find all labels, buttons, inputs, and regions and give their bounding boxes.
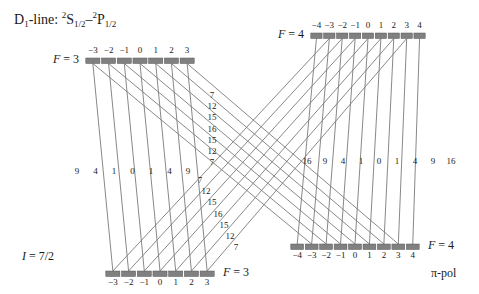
m-quantum-label: −2 [337,20,347,30]
sublevel-bar [363,244,376,250]
sublevel-bar [305,244,318,250]
title-term-a-sub: 1/2 [74,19,86,29]
m-quantum-label: 2 [392,20,397,30]
transition-strength-label: 12 [202,186,211,196]
title-term-b: P [97,12,105,27]
m-quantum-label: −2 [104,45,114,55]
level-ground-F3-lower [106,271,214,277]
level-label-value: = 4 [285,27,304,41]
transition-strength-label: 1 [359,156,364,166]
sublevel-bar [401,33,412,39]
transition-line-right-vertical [369,39,380,245]
transition-strength-label: 7 [234,242,239,252]
transition-strength-label: 9 [323,156,328,166]
m-quantum-label: −4 [312,20,322,30]
level-label-ground-F3-lower: F = 3 [223,265,249,280]
level-label-excited-F4-lower: F = 4 [428,238,454,253]
transition-strength-label: 9 [186,166,191,176]
m-quantum-label: 4 [411,250,416,260]
m-quantum-label: 2 [169,45,174,55]
transition-strength-label: 4 [341,156,346,166]
m-quantum-label: 1 [173,277,178,287]
sublevel-bar [388,33,399,39]
m-quantum-label: 0 [138,45,143,55]
transition-line-right-vertical [398,39,406,245]
diagram-title: D1-line: 2S1/2–2P1/2 [14,10,116,29]
level-ground-F3-upper [86,58,194,64]
title-mid: -line: [29,12,62,27]
transition-strength-label: 15 [208,135,217,145]
level-label-ground-F3-upper: F = 3 [37,52,79,67]
transition-strength-label: 9 [75,166,80,176]
level-label-value: = 4 [435,238,454,252]
transition-strength-label: 12 [208,146,217,156]
sublevel-bar [149,58,163,64]
level-label-value: = 3 [60,52,79,66]
sublevel-bar [86,58,100,64]
transition-line-cross-up [129,39,343,272]
transition-strength-label: 4 [413,156,418,166]
sublevel-bar [169,271,183,277]
sublevel-bar [106,271,120,277]
m-quantum-label: −3 [108,277,118,287]
sublevel-bar [153,271,167,277]
sublevel-bar [137,271,151,277]
sublevel-bar [291,244,304,250]
m-quantum-label: −3 [88,45,98,55]
m-quantum-label: −3 [307,250,317,260]
transition-strength-label: 15 [220,220,229,230]
transition-strength-label: 16 [214,209,223,219]
level-excited-F4-upper [311,33,425,39]
m-quantum-label: 4 [417,20,422,30]
m-quantum-label: −1 [140,277,150,287]
transition-line-right-vertical [326,39,342,245]
m-quantum-label: 3 [185,45,190,55]
transition-strength-label: 0 [130,166,135,176]
sublevel-bar [406,244,419,250]
transition-line-cross-up [113,39,329,272]
sublevel-bar [164,58,178,64]
m-quantum-label: −2 [321,250,331,260]
m-quantum-label: 0 [158,277,163,287]
transition-line-right-vertical [355,39,368,245]
transition-line-cross-up [160,39,368,272]
sublevel-bar [337,33,348,39]
sublevel-bar [324,33,335,39]
sublevel-bar [334,244,347,250]
m-quantum-label: 0 [353,250,358,260]
sublevel-bar [133,58,147,64]
transition-line-right-vertical [413,39,420,245]
transition-strength-label: 7 [210,157,215,167]
sublevel-bar [320,244,333,250]
transition-line-right-vertical [384,39,394,245]
sublevel-bar [414,33,425,39]
transition-strength-label: 1 [395,156,400,166]
transition-strength-label: 7 [198,175,203,185]
transition-strength-label: 4 [167,166,172,176]
m-quantum-label: 1 [367,250,372,260]
sublevel-bar [392,244,405,250]
transition-strength-label: 16 [447,156,456,166]
m-quantum-label: −1 [350,20,360,30]
title-term-b-sub: 1/2 [105,19,117,29]
polarization-label: π-pol [431,266,456,281]
transition-strength-label: 1 [112,166,117,176]
level-label-excited-F4-upper: F = 4 [262,27,304,42]
title-prefix: D [14,12,24,27]
sublevel-bar [349,244,362,250]
transition-strength-label: 7 [210,90,215,100]
level-label-value: = 3 [230,265,249,279]
transition-strength-label: 0 [377,156,382,166]
sublevel-bar [102,58,116,64]
transition-line-cross-up [191,39,393,272]
sublevel-bar [362,33,373,39]
nuclear-spin-label: I = 7/2 [22,249,54,264]
sublevel-bar [349,33,360,39]
m-quantum-label: −4 [292,250,302,260]
sublevel-bar [184,271,198,277]
transition-strength-label: 16 [303,156,312,166]
transition-strength-label: 9 [431,156,436,166]
level-excited-F4-lower [291,244,419,250]
transition-strength-label: 15 [208,112,217,122]
nuclear-spin-value: = 7/2 [26,249,54,263]
